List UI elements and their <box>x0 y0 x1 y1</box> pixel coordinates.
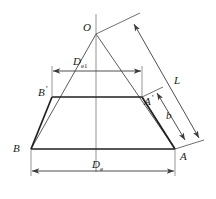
de1-label-subscript: e1 <box>81 62 88 70</box>
vertex-label-B-prime-main: B <box>38 86 45 98</box>
vertex-label-A-prime-main: A <box>143 95 151 107</box>
vertex-label-A-prime: A ' <box>143 93 154 107</box>
frustum-diagram: O D e1 B ' A ' L b B A D e <box>0 0 216 199</box>
vertex-label-B: B <box>13 142 20 154</box>
base-extension-line <box>175 140 204 149</box>
frustum-outline <box>31 97 175 149</box>
dimension-label-de1: D e1 <box>72 55 88 70</box>
vertex-label-B-prime: B ' <box>38 84 48 98</box>
vertex-label-A-prime-mark: ' <box>152 93 154 103</box>
dimension-label-L: L <box>173 74 180 86</box>
frustum-drawing-canvas: O D e1 B ' A ' L b B A D e <box>0 0 216 199</box>
de1-label-main: D <box>72 55 81 67</box>
apex-extension-line <box>96 13 140 34</box>
frustum-left-slant-edge <box>31 97 52 149</box>
vertex-label-A: A <box>179 150 187 162</box>
de-label-main: D <box>91 158 100 170</box>
de-label-subscript: e <box>100 165 103 173</box>
vertex-label-O: O <box>83 21 91 33</box>
vertex-label-B-prime-mark: ' <box>46 84 48 94</box>
dimension-label-b: b <box>166 109 172 121</box>
